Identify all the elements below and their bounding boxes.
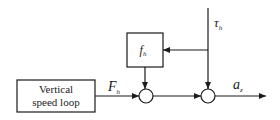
fh-block: fh — [127, 33, 163, 67]
signal-label-Fh: Fh — [107, 79, 121, 96]
summing-junction-1 — [139, 89, 153, 103]
signal-label-az: az — [233, 77, 243, 94]
block-diagram: Vertical speed loop fh Fh τh az — [0, 0, 280, 120]
vertical-speed-loop-label-2: speed loop — [32, 96, 80, 108]
summing-junction-2 — [201, 89, 215, 103]
signal-label-tau-h: τh — [214, 15, 223, 32]
vertical-speed-loop-label-1: Vertical — [39, 83, 73, 95]
vertical-speed-loop-block: Vertical speed loop — [17, 80, 95, 112]
